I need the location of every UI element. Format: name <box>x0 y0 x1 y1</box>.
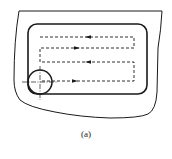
tool-path <box>40 37 134 81</box>
workpiece-outline <box>14 11 162 118</box>
arrow-right-icon <box>74 46 80 49</box>
arrow-left-icon <box>85 60 91 63</box>
arrow-left-icon <box>85 35 91 38</box>
arrow-right-icon <box>72 79 78 82</box>
figure-caption: (a) <box>0 129 172 139</box>
pocket-outline <box>28 24 147 94</box>
toolpath-figure: (a) <box>0 0 172 159</box>
direction-arrows <box>72 35 91 82</box>
